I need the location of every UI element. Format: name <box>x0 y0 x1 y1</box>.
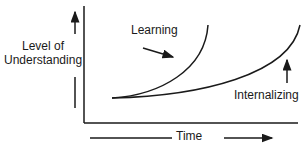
learning-pointer-icon <box>143 48 173 57</box>
y-axis-label-line1: Level of <box>4 39 82 53</box>
learning-label: Learning <box>131 23 178 37</box>
y-axis-label: Level of Understanding <box>4 39 82 67</box>
internalizing-label: Internalizing <box>234 88 299 102</box>
x-axis-label: Time <box>176 129 202 143</box>
y-axis-label-line2: Understanding <box>4 53 82 67</box>
